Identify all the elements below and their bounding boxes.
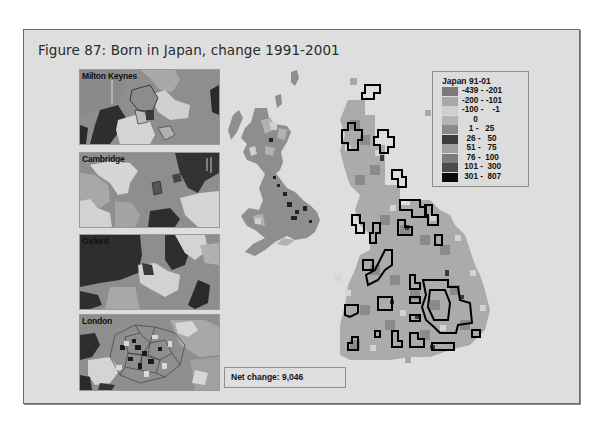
legend-item: 301 - 807 [442,173,526,182]
inset-map-oxford [80,235,219,309]
legend-label: 26 - 50 [462,134,522,143]
legend-swatch [442,154,458,163]
legend-label: 1 - 25 [462,124,522,133]
inset-label: Cambridge [82,154,125,164]
legend: Japan 91-01 -439 - -201 -200 - -101 -100… [432,71,529,187]
legend-swatch [442,144,458,153]
legend-label: 76 - 100 [462,153,522,162]
legend-swatch [442,135,458,144]
legend-swatch [442,106,458,115]
legend-swatch [442,173,458,182]
inset-label: Milton Keynes [82,71,137,81]
legend-swatch [442,97,458,106]
inset-map-cambridge [80,153,219,227]
inset-milton-keynes: Milton Keynes [79,69,220,145]
figure-title: Figure 87: Born in Japan, change 1991-20… [38,42,340,58]
inset-cambridge: Cambridge [79,152,220,228]
legend-label: 301 - 807 [462,172,522,181]
inset-label: London [82,316,112,326]
legend-title: Japan 91-01 [442,76,491,86]
inset-map-milton-keynes [80,70,219,144]
legend-label: -100 - -1 [462,105,522,114]
legend-swatch [442,125,458,134]
legend-label: -439 - -201 [462,86,522,95]
legend-label: 51 - 75 [462,143,522,152]
legend-swatch [442,87,458,96]
legend-swatch [442,116,458,125]
inset-map-london [80,315,219,390]
inset-london: London [79,314,220,391]
uk-geographic-map [225,60,335,285]
inset-label: Oxford [82,236,109,246]
net-change-box: Net change: 9,046 [224,367,346,388]
net-change-label: Net change: 9,046 [231,372,303,382]
legend-swatch [442,163,458,172]
legend-label: -200 - -101 [462,96,522,105]
inset-oxford: Oxford [79,234,220,310]
legend-label: 101 - 300 [462,162,522,171]
legend-label: 0 [462,115,522,124]
